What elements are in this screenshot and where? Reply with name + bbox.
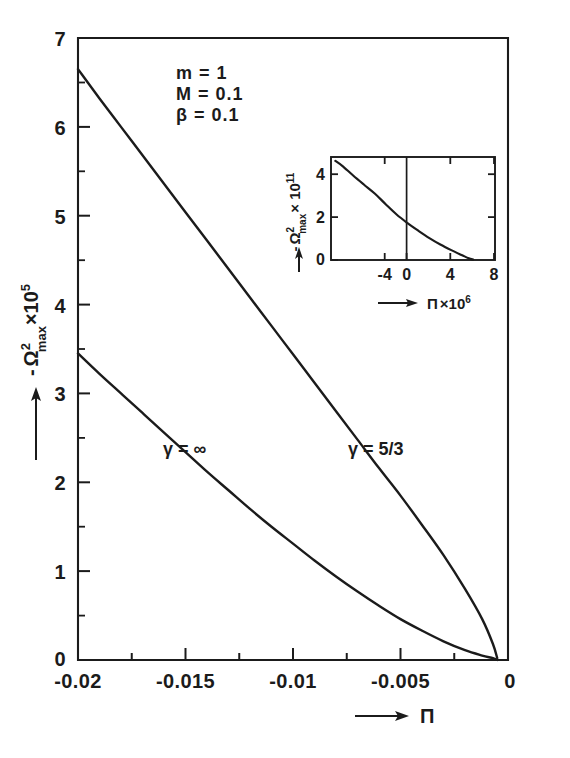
y-tick-label-6: 6 [54, 117, 66, 139]
inset-y-tick-labels: 0 2 4 [316, 166, 325, 268]
inset-x-title-exponent: 6 [465, 294, 471, 305]
inset-y-title-minus: - [286, 246, 303, 251]
y-tick-label-7: 7 [54, 28, 66, 50]
inset-y-tick-label-0: 0 [316, 251, 325, 268]
inset-y-tick-label-1: 2 [316, 209, 325, 226]
y-title-superscript: 2 [18, 343, 33, 350]
inset-x-title-times: ×10 [440, 295, 465, 312]
y-tick-label-3: 3 [54, 383, 66, 405]
x-tick-label-3: -0.005 [371, 670, 430, 692]
inset-y-title-times: × 10 [286, 183, 303, 213]
figure-container: 7 6 5 4 3 2 1 0 -0.02 -0.015 -0.01 -0.00… [0, 0, 570, 758]
y-tick-label-0: 0 [54, 648, 66, 670]
x-tick-label-4: 0 [504, 670, 516, 692]
x-tick-label-0: -0.02 [54, 670, 102, 692]
canvas-background [0, 0, 570, 758]
inset-x-tick-label-0: -4 [378, 266, 392, 283]
x-tick-label-2: -0.01 [269, 670, 317, 692]
inset-x-tick-label-1: 0 [402, 266, 411, 283]
curve-label-gamma-5-3: γ = 5/3 [348, 439, 404, 459]
curve-label-gamma-infinity: γ = ∞ [163, 439, 207, 459]
y-title-minus: - [20, 369, 42, 376]
inset-y-title-exponent: 11 [285, 172, 296, 183]
y-title-times: ×10 [20, 291, 42, 325]
inset-x-tick-label-3: 8 [490, 266, 499, 283]
inset-x-title-pi: Π [427, 295, 438, 312]
inset-axes-box [331, 157, 495, 260]
inset-y-title-superscript: 2 [285, 226, 296, 232]
inset-x-tick-label-2: 4 [446, 266, 455, 283]
y-tick-label-1: 1 [54, 561, 66, 583]
x-axis-title: Π [420, 705, 434, 727]
y-title-exponent: 5 [18, 284, 33, 291]
y-tick-label-4: 4 [54, 295, 66, 317]
inset-y-title-subscript: max [297, 213, 308, 233]
inset-x-axis-title: Π×106 [427, 294, 471, 312]
inset-y-tick-label-2: 4 [316, 166, 325, 183]
annotation-m: m = 1 [176, 63, 228, 83]
y-title-subscript: max [34, 325, 49, 352]
x-tick-label-1: -0.015 [156, 670, 215, 692]
annotation-beta: β = 0.1 [176, 105, 240, 125]
plot-canvas: 7 6 5 4 3 2 1 0 -0.02 -0.015 -0.01 -0.00… [0, 0, 570, 758]
y-tick-label-5: 5 [54, 206, 66, 228]
y-tick-label-2: 2 [54, 472, 66, 494]
annotation-M: M = 0.1 [176, 84, 244, 104]
